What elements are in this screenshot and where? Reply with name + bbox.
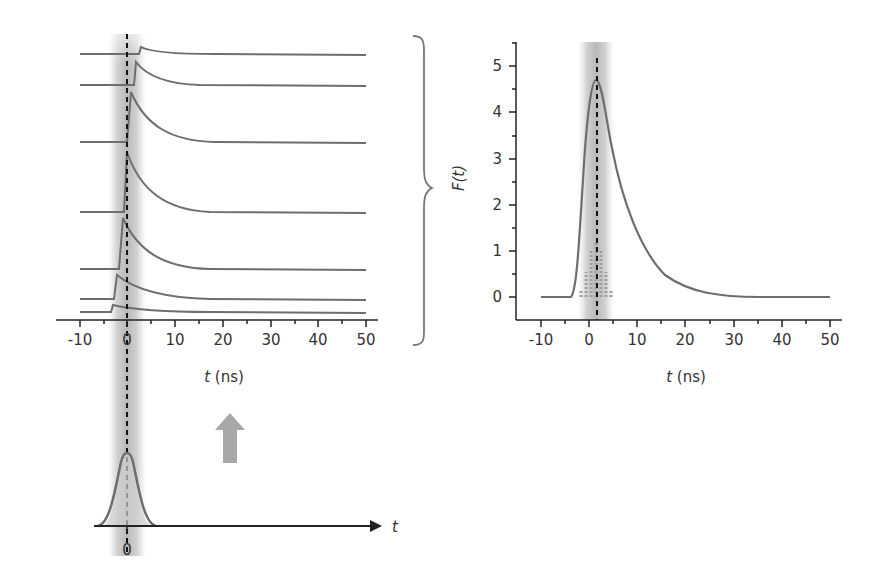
right-x-axis (516, 320, 842, 327)
tick-label: 5 (492, 57, 502, 75)
left-x-axis-title: t (ns) (204, 368, 244, 386)
tick-label: 10 (627, 331, 646, 349)
axis-arrow-head-icon (370, 520, 382, 532)
right-y-tick-labels: 0 1 2 3 4 5 (492, 57, 502, 306)
tick-label: 2 (492, 196, 502, 214)
tick-label: 40 (772, 331, 791, 349)
tick-label: 1 (492, 242, 502, 260)
figure-svg: -10 0 10 20 30 40 50 t (ns) t 0 (0, 0, 893, 585)
tick-label: 10 (165, 331, 184, 349)
tick-label: 3 (492, 150, 502, 168)
right-plot: 0 1 2 3 4 5 F(t) -10 0 1 (450, 42, 842, 386)
tick-label: 50 (356, 331, 375, 349)
right-x-tick-labels: -10 0 10 20 30 40 50 (529, 331, 840, 349)
up-arrow-icon (215, 413, 245, 463)
tick-label: 50 (820, 331, 839, 349)
tick-label: 4 (492, 103, 502, 121)
tick-label: 40 (308, 331, 327, 349)
tick-label: 0 (492, 288, 502, 306)
tick-label: 20 (213, 331, 232, 349)
right-x-axis-title: t (ns) (666, 368, 706, 386)
bottom-axis-label: t (392, 518, 399, 536)
left-plot: -10 0 10 20 30 40 50 t (ns) (56, 34, 378, 556)
curly-brace (413, 36, 432, 345)
left-x-axis (56, 320, 378, 327)
tick-label: 0 (122, 331, 132, 349)
tick-label: 20 (675, 331, 694, 349)
tick-label: -10 (529, 331, 554, 349)
bottom-zero-label: 0 (122, 541, 132, 559)
figure: -10 0 10 20 30 40 50 t (ns) t 0 (0, 0, 893, 585)
right-y-axis-title: F(t) (450, 165, 468, 191)
tick-label: 0 (584, 331, 594, 349)
right-y-axis (509, 42, 516, 320)
tick-label: 30 (261, 331, 280, 349)
tick-label: -10 (68, 331, 93, 349)
tick-label: 30 (724, 331, 743, 349)
